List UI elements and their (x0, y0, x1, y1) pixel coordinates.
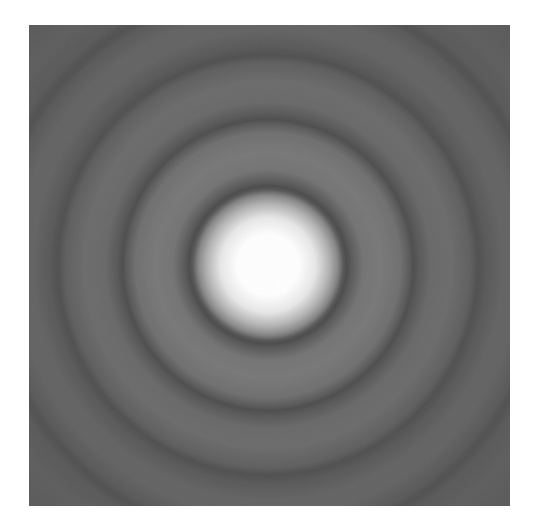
diffraction-pattern-figure (29, 25, 510, 506)
figure-description: Airy diffraction pattern: bright central… (0, 0, 1, 1)
airy-disk-image (29, 25, 510, 506)
airy-pattern-graphic (29, 25, 510, 506)
pattern-background (29, 25, 510, 506)
